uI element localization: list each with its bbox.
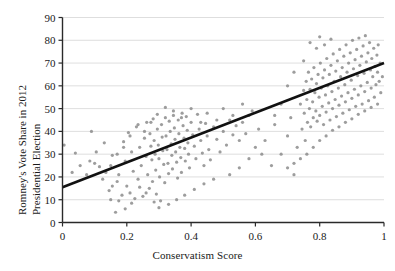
svg-text:0.4: 0.4 [184, 230, 198, 242]
svg-text:40: 40 [45, 125, 57, 137]
svg-text:0.8: 0.8 [313, 230, 327, 242]
svg-text:20: 20 [45, 171, 57, 183]
svg-text:30: 30 [45, 148, 57, 160]
y-axis-title-line-2: Presidential Election [30, 124, 42, 215]
x-axis-ticks: 00.20.40.60.81 [60, 223, 387, 242]
axis-lines [63, 18, 385, 223]
svg-text:80: 80 [45, 34, 57, 46]
svg-text:70: 70 [45, 57, 57, 69]
x-axis-title: Conservatism Score [0, 249, 395, 261]
svg-text:1: 1 [381, 230, 387, 242]
svg-text:10: 10 [45, 194, 57, 206]
svg-text:50: 50 [45, 103, 57, 115]
y-axis-ticks: 0102030405060708090 [45, 12, 63, 229]
chart-canvas: 0102030405060708090 00.20.40.60.81 [0, 0, 395, 271]
svg-text:0.6: 0.6 [249, 230, 263, 242]
svg-text:60: 60 [45, 80, 57, 92]
svg-text:0: 0 [50, 217, 56, 229]
y-axis-title: Romney's Vote Share in 2012 Presidential… [2, 0, 44, 230]
svg-text:0: 0 [60, 230, 66, 242]
trend-line [63, 63, 385, 187]
svg-text:0.2: 0.2 [120, 230, 134, 242]
y-axis-title-line-1: Romney's Vote Share in 2012 [16, 85, 28, 215]
scatter-plot-figure: 0102030405060708090 00.20.40.60.81 Romne… [0, 0, 395, 271]
svg-text:90: 90 [45, 12, 57, 24]
